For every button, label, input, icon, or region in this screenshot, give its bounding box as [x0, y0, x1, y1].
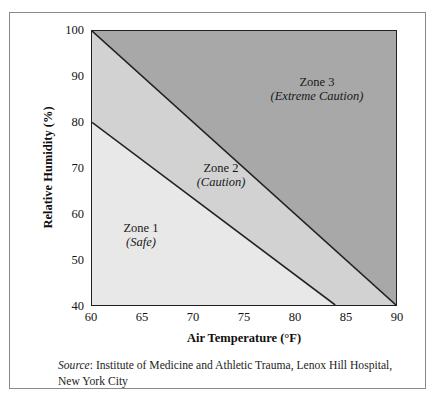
- zone-3-sublabel: (Extreme Caution): [242, 89, 392, 103]
- zone-2-sublabel: (Caution): [146, 175, 296, 189]
- y-tick-100: 100: [44, 23, 84, 38]
- x-axis-title: Air Temperature (°F): [91, 331, 397, 346]
- source-text: Institute of Medicine and Athletic Traum…: [58, 359, 392, 388]
- x-tick-75: 75: [224, 310, 264, 325]
- zone-2-name: Zone 2: [146, 161, 296, 175]
- x-tick-90: 90: [377, 310, 417, 325]
- x-tick-85: 85: [326, 310, 366, 325]
- zone-1-name: Zone 1: [66, 221, 216, 235]
- source-separator: :: [90, 359, 93, 372]
- x-tick-80: 80: [275, 310, 315, 325]
- figure-frame: Zone 3 (Extreme Caution) Zone 2 (Caution…: [9, 12, 426, 389]
- zone-2-label: Zone 2 (Caution): [146, 161, 296, 189]
- x-tick-60: 60: [71, 310, 111, 325]
- x-tick-70: 70: [173, 310, 213, 325]
- zone-1-label: Zone 1 (Safe): [66, 221, 216, 249]
- zone-3-label: Zone 3 (Extreme Caution): [242, 75, 392, 103]
- zone-1-sublabel: (Safe): [66, 235, 216, 249]
- source-label: Source: [58, 359, 90, 372]
- source-note: Source: Institute of Medicine and Athlet…: [58, 358, 398, 390]
- y-axis-title: Relative Humidity (%): [41, 68, 56, 268]
- zone-3-name: Zone 3: [242, 75, 392, 89]
- x-tick-65: 65: [122, 310, 162, 325]
